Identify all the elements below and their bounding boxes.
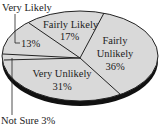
label-very-unlikely-pct: 31% bbox=[52, 81, 72, 92]
label-not-sure: Not Sure 3% bbox=[1, 115, 55, 126]
label-very-unlikely: Very Unlikely bbox=[32, 68, 92, 79]
label-fairly-likely-pct: 17% bbox=[60, 31, 80, 42]
label-fairly-unlikely-1: Fairly bbox=[102, 35, 128, 46]
label-very-likely: Very Likely bbox=[2, 2, 53, 13]
label-fairly-unlikely-pct: 36% bbox=[105, 61, 125, 72]
label-very-likely-pct: 13% bbox=[21, 38, 41, 49]
pie-chart: Very Likely 13% Fairly Likely 17% Fairly… bbox=[0, 0, 159, 126]
label-fairly-likely: Fairly Likely bbox=[43, 19, 99, 30]
label-fairly-unlikely-2: Unlikely bbox=[97, 48, 134, 59]
